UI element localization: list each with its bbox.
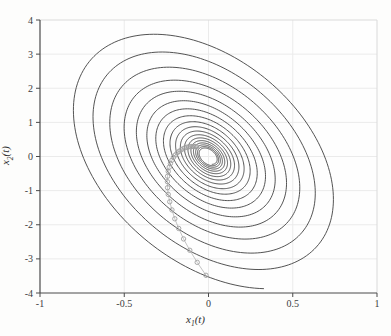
y-tick-label: 3: [28, 49, 33, 60]
x-tick-label: 0: [206, 298, 211, 309]
y-tick-label: 1: [28, 117, 33, 128]
y-tick-label: 0: [28, 151, 33, 162]
y-tick-label: -3: [25, 253, 33, 264]
x-tick-label: 1: [375, 298, 380, 309]
x-tick-label: 0.5: [287, 298, 300, 309]
x-tick-label: -0.5: [116, 298, 132, 309]
y-tick-label: -1: [25, 185, 33, 196]
y-tick-label: -4: [25, 288, 33, 299]
phase-portrait-figure: -1-0.500.51-4-3-2-101234 x1(t) x2(t): [0, 0, 391, 336]
y-tick-label: 2: [28, 83, 33, 94]
x-tick-label: -1: [36, 298, 44, 309]
y-tick-label: -2: [25, 219, 33, 230]
y-tick-label: 4: [28, 15, 33, 26]
phase-portrait-canvas: -1-0.500.51-4-3-2-101234: [0, 0, 391, 336]
